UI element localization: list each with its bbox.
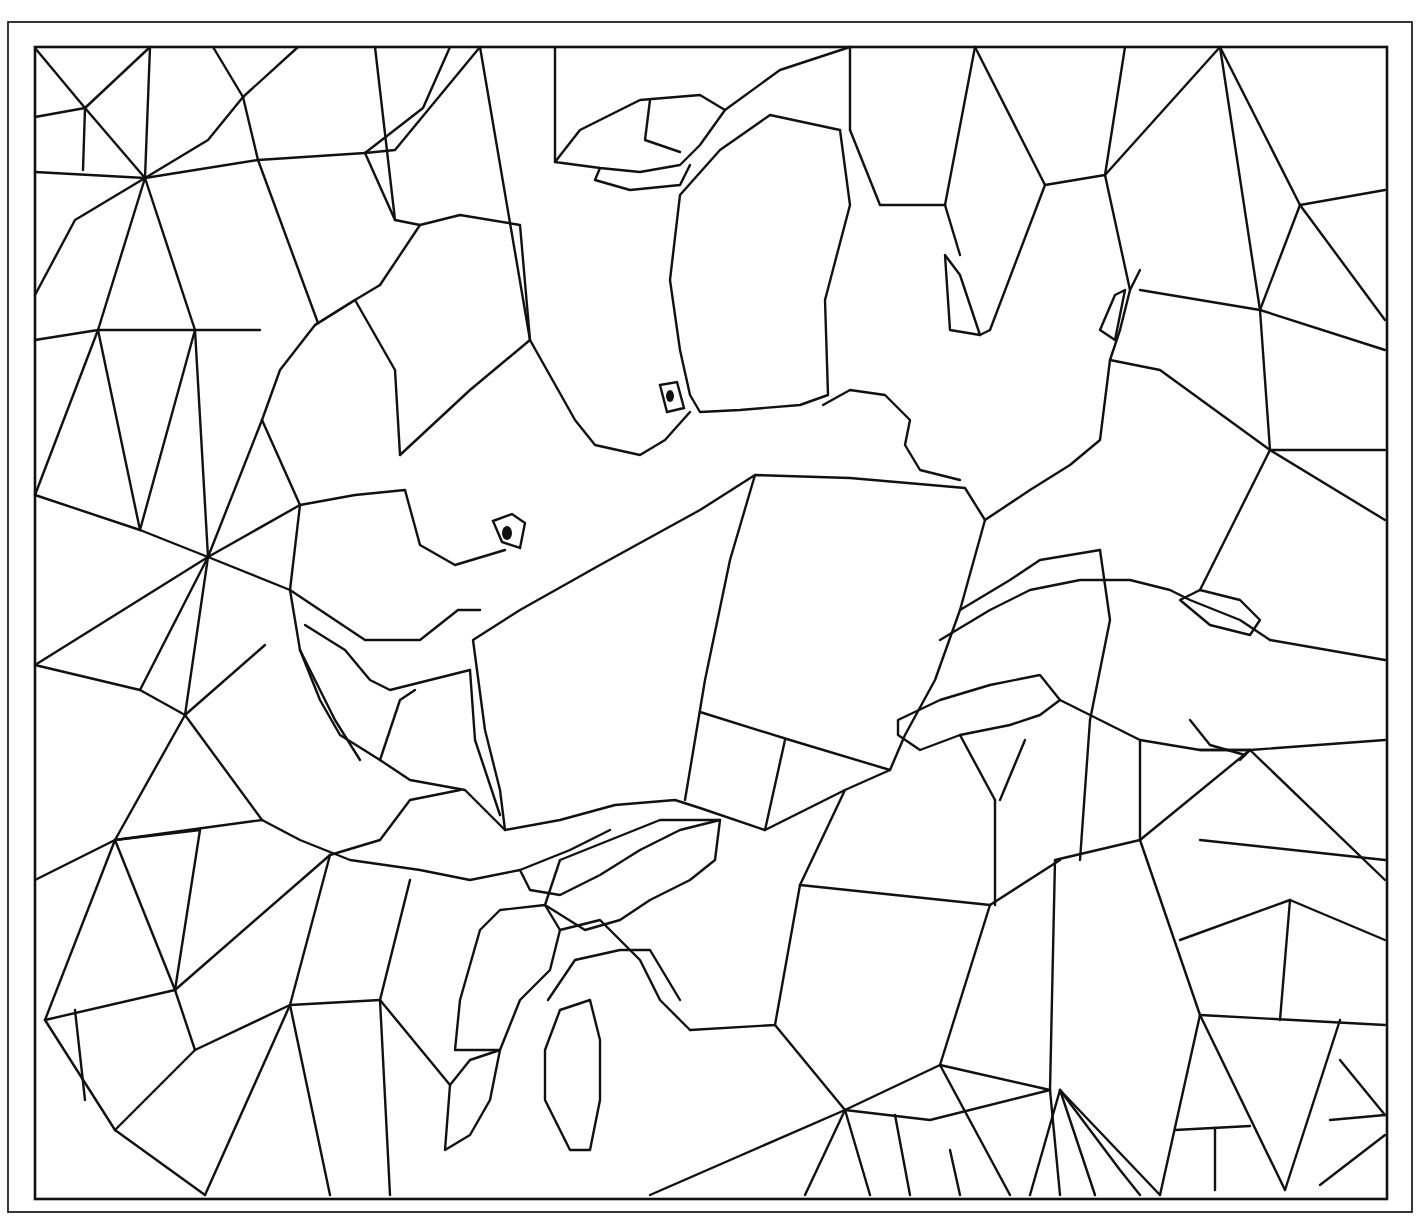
- mosaic-line: [290, 855, 330, 1005]
- leg-segment: [545, 1000, 600, 1150]
- mosaic-line: [185, 715, 262, 820]
- background-mosaic-lines: [35, 47, 1385, 1195]
- mosaic-line: [990, 860, 1060, 905]
- leg-segment: [290, 505, 505, 830]
- mosaic-line: [650, 1110, 845, 1195]
- mosaic-line: [205, 1005, 290, 1195]
- leg-segment: [548, 950, 680, 1000]
- mosaic-line: [945, 47, 975, 205]
- mosaic-line: [45, 1020, 115, 1130]
- mosaic-line: [1140, 840, 1200, 1015]
- leg-segment: [380, 690, 415, 760]
- mosaic-line: [960, 735, 995, 800]
- claw-segment: [645, 100, 680, 152]
- claw-segment: [670, 115, 850, 412]
- crab-mosaic-illustration: [0, 0, 1420, 1223]
- shell-segment: [700, 712, 890, 770]
- mosaic-line: [480, 47, 530, 340]
- mosaic-line: [75, 1010, 85, 1100]
- leg-segment: [305, 625, 470, 690]
- mosaic-line: [1260, 310, 1385, 350]
- mosaic-line: [175, 855, 330, 990]
- mosaic-line: [1000, 740, 1025, 800]
- mosaic-line: [208, 420, 262, 557]
- mosaic-line: [83, 108, 85, 170]
- mosaic-line: [800, 885, 990, 905]
- mosaic-line: [1250, 740, 1385, 750]
- mosaic-line: [845, 1065, 1050, 1110]
- eye-dot: [502, 526, 512, 540]
- mosaic-line: [1330, 1115, 1385, 1120]
- mosaic-line: [145, 47, 150, 178]
- mosaic-line: [1200, 1015, 1385, 1025]
- mosaic-line: [690, 885, 800, 1030]
- leg-segment: [470, 670, 500, 815]
- leg-segment: [455, 905, 560, 1050]
- mosaic-line: [1200, 1015, 1285, 1190]
- mosaic-line: [1140, 205, 1300, 310]
- mosaic-line: [805, 1110, 845, 1195]
- leg-segment: [445, 1050, 500, 1150]
- mosaic-line: [115, 1050, 195, 1130]
- mosaic-line: [45, 990, 175, 1020]
- mosaic-line: [208, 557, 290, 590]
- leg-segment: [262, 820, 610, 880]
- mosaic-line: [208, 505, 300, 557]
- mosaic-line: [950, 1150, 960, 1195]
- mosaic-line: [1270, 450, 1385, 520]
- mosaic-line: [1105, 175, 1130, 290]
- claw-segment: [262, 285, 380, 420]
- mosaic-line: [845, 1110, 870, 1195]
- mosaic-line: [1270, 640, 1385, 660]
- mosaic-line: [115, 1130, 205, 1195]
- mosaic-line: [775, 1025, 845, 1110]
- mosaic-line: [290, 1005, 330, 1195]
- mosaic-line: [1060, 1090, 1160, 1195]
- mosaic-line: [1280, 900, 1290, 1020]
- mosaic-line: [380, 1000, 450, 1085]
- mosaic-line: [1110, 360, 1270, 450]
- mosaic-line: [1050, 840, 1140, 1090]
- mosaic-line: [380, 880, 410, 1000]
- mosaic-line: [258, 160, 318, 323]
- mosaic-line: [35, 178, 145, 295]
- mosaic-line: [1105, 47, 1300, 205]
- leg-segment: [300, 650, 360, 760]
- crab-eyes: [502, 390, 674, 540]
- mosaic-line: [1300, 190, 1385, 205]
- mosaic-line: [175, 990, 195, 1050]
- mosaic-line: [940, 905, 990, 1065]
- shell-segment: [685, 475, 755, 800]
- mosaic-line: [850, 130, 945, 205]
- crab-legs: [262, 270, 1270, 1150]
- mosaic-line: [980, 185, 1045, 335]
- mosaic-line: [1160, 1015, 1200, 1195]
- shell-segment: [473, 475, 985, 830]
- mosaic-line: [1060, 1090, 1095, 1195]
- mosaic-line: [800, 790, 845, 885]
- mosaic-line: [975, 47, 1125, 185]
- mosaic-line: [213, 47, 243, 97]
- mosaic-line: [1300, 205, 1385, 320]
- leg-segment: [545, 820, 720, 930]
- eye-dot: [666, 390, 674, 402]
- mosaic-line: [1060, 1090, 1140, 1195]
- mosaic-line: [1320, 1135, 1385, 1185]
- mosaic-line: [1260, 310, 1270, 450]
- mosaic-line: [1080, 720, 1090, 860]
- mosaic-line: [895, 1115, 910, 1195]
- mosaic-line: [1285, 1020, 1340, 1190]
- crab-eye-stalks: [493, 382, 684, 548]
- leg-segment: [330, 790, 460, 855]
- mosaic-line: [380, 1000, 390, 1195]
- claw-segment: [555, 95, 725, 172]
- mosaic-line: [35, 330, 98, 495]
- leg-segment: [1110, 270, 1140, 360]
- shell-segment: [765, 740, 785, 830]
- mosaic-line: [1200, 840, 1385, 860]
- mosaic-line: [98, 330, 140, 530]
- mosaic-line: [35, 557, 208, 665]
- leg-segment: [898, 675, 1060, 750]
- mosaic-line: [35, 330, 260, 340]
- inner-frame-border: [35, 47, 1387, 1199]
